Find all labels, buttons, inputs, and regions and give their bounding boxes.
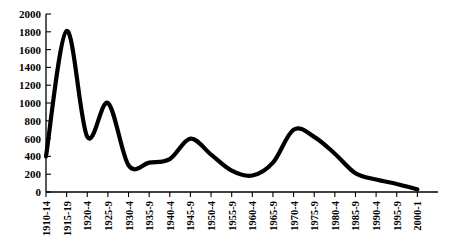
y-axis-tick-label: 0 [36, 186, 42, 198]
x-axis-tick-label: 1950-4 [206, 200, 217, 230]
x-axis-tick-label: 1940-4 [165, 200, 176, 230]
y-axis-tick-label: 1000 [19, 97, 42, 109]
x-axis-tick-label: 1935-9 [144, 201, 155, 231]
line-chart: 0200400600800100012001400160018002000 19… [0, 0, 467, 248]
y-axis-tick-labels: 0200400600800100012001400160018002000 [19, 8, 42, 198]
x-axis-tick-labels: 1910-141915-191920-41925-91930-41935-919… [41, 200, 423, 236]
y-axis-tick-label: 1400 [19, 61, 42, 73]
y-axis-tick-label: 400 [25, 150, 42, 162]
chart-canvas: 0200400600800100012001400160018002000 19… [0, 0, 467, 248]
x-axis-tick-label: 2000-1 [412, 201, 423, 231]
x-axis-tick-label: 1980-4 [330, 200, 341, 230]
x-axis-tick-label: 1920-4 [82, 200, 93, 230]
y-axis-tick-label: 1200 [19, 79, 42, 91]
y-axis-tick-label: 800 [25, 115, 42, 127]
y-axis-tick-label: 1800 [19, 26, 42, 38]
x-axis-tick-label: 1970-4 [289, 200, 300, 230]
x-axis-tick-marks [46, 192, 417, 197]
x-axis-tick-label: 1955-9 [227, 201, 238, 231]
x-axis-tick-label: 1975-9 [309, 201, 320, 231]
x-axis-tick-label: 1990-4 [371, 200, 382, 230]
x-axis-tick-label: 1925-9 [103, 201, 114, 231]
x-axis-tick-label: 1915-19 [62, 201, 73, 236]
data-series-line [46, 31, 417, 190]
y-axis-tick-label: 1600 [19, 44, 42, 56]
y-axis-tick-marks [46, 14, 51, 192]
x-axis-tick-label: 1995-9 [392, 201, 403, 231]
x-axis-tick-label: 1965-9 [268, 201, 279, 231]
x-axis-tick-label: 1910-14 [41, 200, 52, 236]
x-axis-tick-label: 1985-9 [350, 201, 361, 231]
x-axis-tick-label: 1945-9 [185, 201, 196, 231]
x-axis-tick-label: 1960-4 [247, 200, 258, 230]
y-axis-tick-label: 2000 [19, 8, 42, 20]
y-axis-tick-label: 600 [25, 133, 42, 145]
y-axis-tick-label: 200 [25, 168, 42, 180]
x-axis-tick-label: 1930-4 [124, 200, 135, 230]
